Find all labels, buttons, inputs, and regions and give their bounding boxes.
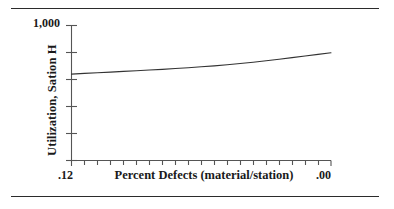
x-axis-tick-label-left: .12 xyxy=(58,168,73,183)
x-axis-tick-label-right: .00 xyxy=(316,168,331,183)
data-line-utilization xyxy=(72,53,332,74)
x-axis-title: Percent Defects (material/station) xyxy=(104,168,304,183)
y-axis-title: Utilization, Sation H xyxy=(44,6,60,156)
x-axis-ticks xyxy=(72,161,332,167)
chart-figure: 1,000 Utilization, Sation H .12 Percent … xyxy=(0,0,394,209)
